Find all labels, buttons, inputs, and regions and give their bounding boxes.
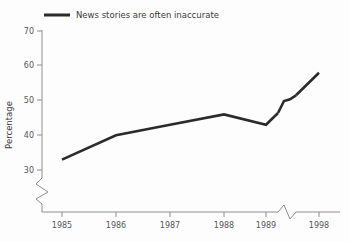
y-tick-label-60: 60 <box>24 61 34 70</box>
x-tick-label-1987: 1987 <box>160 221 180 230</box>
y-axis-title: Percentage <box>4 101 14 149</box>
x-tick-label-1985: 1985 <box>52 221 72 230</box>
line-chart: News stories are often inaccurate Percen… <box>0 0 349 242</box>
legend-label: News stories are often inaccurate <box>76 10 219 20</box>
y-tick-label-30: 30 <box>24 166 34 175</box>
y-tick-label-70: 70 <box>24 27 34 36</box>
y-tick-label-50: 50 <box>24 96 34 105</box>
x-tick-label-1986: 1986 <box>106 221 126 230</box>
x-tick-label-1998: 1998 <box>309 221 329 230</box>
x-tick-label-1988: 1988 <box>214 221 234 230</box>
chart-container: News stories are often inaccurate Percen… <box>0 0 349 242</box>
x-tick-label-1989: 1989 <box>256 221 276 230</box>
y-tick-label-40: 40 <box>24 131 34 140</box>
chart-background <box>0 0 349 242</box>
